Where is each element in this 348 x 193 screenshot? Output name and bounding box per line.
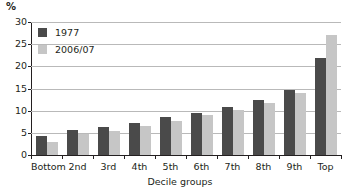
x-axis-tick-mark bbox=[279, 155, 280, 159]
bar bbox=[295, 93, 306, 155]
bar-group bbox=[155, 22, 186, 155]
x-axis-tick-label: 9th bbox=[279, 161, 310, 172]
x-axis-tick-mark bbox=[217, 155, 218, 159]
bar bbox=[253, 100, 264, 155]
y-axis-tick-label: 10 bbox=[3, 106, 27, 116]
bar bbox=[191, 113, 202, 155]
bar-chart: % 051015202530 Bottom2nd3rd4th5th6th7th8… bbox=[0, 0, 348, 193]
bar bbox=[98, 127, 109, 155]
legend-item: 1977 bbox=[38, 24, 158, 41]
bar bbox=[67, 130, 78, 155]
bar bbox=[233, 110, 244, 155]
x-axis-tick-label: 7th bbox=[217, 161, 248, 172]
x-axis-tick-mark bbox=[186, 155, 187, 159]
x-axis-tick-label: Top bbox=[310, 161, 341, 172]
x-axis-tick-mark bbox=[124, 155, 125, 159]
x-axis-tick-label: Bottom bbox=[31, 161, 62, 172]
legend-item: 2006/07 bbox=[38, 41, 158, 58]
chart-legend: 19772006/07 bbox=[38, 24, 158, 58]
x-axis-tick-mark bbox=[341, 155, 342, 159]
x-axis-tick-mark bbox=[310, 155, 311, 159]
bar bbox=[78, 134, 89, 155]
bar bbox=[264, 103, 275, 155]
bar bbox=[171, 121, 182, 155]
bar-group bbox=[186, 22, 217, 155]
y-axis-tick-label: 5 bbox=[3, 128, 27, 138]
bar-group bbox=[310, 22, 341, 155]
y-axis-tick-labels: 051015202530 bbox=[0, 0, 27, 193]
y-axis-tick-label: 0 bbox=[3, 150, 27, 160]
bar bbox=[222, 107, 233, 155]
y-axis-tick-label: 30 bbox=[3, 17, 27, 27]
legend-swatch-icon bbox=[38, 28, 47, 37]
bar bbox=[315, 58, 326, 155]
x-axis-tick-label: 6th bbox=[186, 161, 217, 172]
bar bbox=[140, 126, 151, 155]
x-axis-title: Decile groups bbox=[0, 176, 348, 187]
bar bbox=[109, 131, 120, 155]
legend-item-label: 2006/07 bbox=[55, 45, 94, 55]
x-axis-tick-mark bbox=[93, 155, 94, 159]
x-axis-tick-label: 2nd bbox=[62, 161, 93, 172]
y-axis-tick-label: 25 bbox=[3, 39, 27, 49]
x-axis-tick-label: 3rd bbox=[93, 161, 124, 172]
bar bbox=[160, 117, 171, 155]
x-axis-tick-label: 8th bbox=[248, 161, 279, 172]
x-axis-tick-mark bbox=[155, 155, 156, 159]
x-axis-title-text: Decile groups bbox=[147, 176, 212, 187]
x-axis-tick-mark bbox=[31, 155, 32, 159]
bar-group bbox=[248, 22, 279, 155]
bar bbox=[202, 115, 213, 155]
bar bbox=[284, 90, 295, 155]
x-axis-tick-label: 4th bbox=[124, 161, 155, 172]
x-axis-tick-mark bbox=[62, 155, 63, 159]
bar bbox=[129, 123, 140, 155]
x-axis-tick-label: 5th bbox=[155, 161, 186, 172]
y-axis-tick-label: 15 bbox=[3, 84, 27, 94]
x-axis-tick-mark bbox=[248, 155, 249, 159]
bar bbox=[47, 142, 58, 155]
bar bbox=[36, 136, 47, 155]
bar-group bbox=[217, 22, 248, 155]
legend-swatch-icon bbox=[38, 45, 47, 54]
bar bbox=[326, 35, 337, 155]
y-axis-tick-label: 20 bbox=[3, 61, 27, 71]
legend-item-label: 1977 bbox=[55, 28, 79, 38]
bar-group bbox=[279, 22, 310, 155]
